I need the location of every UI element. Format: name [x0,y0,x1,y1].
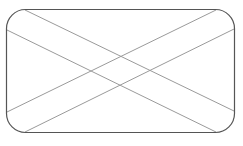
image-placeholder [0,0,243,146]
diagonal-line-4 [25,29,234,132]
placeholder-frame [7,10,235,133]
diagonal-line-3 [7,10,216,112]
diagonal-line-1 [25,10,234,111]
diagonal-line-2 [7,30,216,132]
placeholder-graphic [0,0,243,146]
crossing-lines [7,10,234,132]
